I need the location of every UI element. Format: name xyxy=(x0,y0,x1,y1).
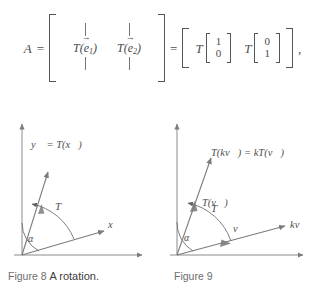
figure-9: T(kv⃗) = kT(v⃗) T(v⃗) v⃗ kv⃗ T α Figure … xyxy=(163,100,325,265)
left-bracket-icon xyxy=(182,28,189,68)
matrix-equation: A = T(e1) T(e2) = xyxy=(0,0,325,96)
figure-9-caption-name: Figure 9 xyxy=(174,270,213,282)
figure-8-diagram xyxy=(0,100,160,265)
matrix-entries-row: T(e1) T(e2) xyxy=(63,41,151,56)
figure-9-caption: Figure 9 xyxy=(174,270,213,282)
label-scaled-image-vector: T(kv⃗) = kT(v⃗) xyxy=(211,148,284,159)
bottom-bar-cell-2 xyxy=(107,57,151,74)
equation-row: A = T(e1) T(e2) = xyxy=(0,0,325,96)
matrix-bottom-bars-row xyxy=(63,57,151,74)
right-bracket-icon xyxy=(227,33,231,63)
label-source-vector-v: v⃗ xyxy=(233,224,246,235)
column-matrix-body: T(e1) T(e2) xyxy=(56,14,158,82)
label-transformation-T: T xyxy=(211,203,217,214)
trailing-comma: , xyxy=(298,42,301,55)
rhs-term-1-func: T xyxy=(195,42,202,55)
left-bracket-icon xyxy=(49,14,56,82)
label-source-vector-x: x⃗ xyxy=(108,220,121,231)
equals-sign-2: = xyxy=(170,42,177,55)
left-bracket-icon xyxy=(254,33,258,63)
left-bracket-icon xyxy=(206,33,210,63)
label-transformation-T: T xyxy=(55,201,61,212)
label-scaled-source-vector-kv: kv⃗ xyxy=(290,220,308,231)
vector-x-arrow xyxy=(22,231,104,255)
transformation-arc xyxy=(32,204,74,239)
rhs-matrix: T 1 0 T xyxy=(182,28,292,68)
figure-8-caption-text: A rotation. xyxy=(49,270,99,282)
figure-8: y⃗ = T(x⃗) x⃗ T α Figure 8 A rotation. xyxy=(0,100,160,265)
rhs-term-1-vector-body: 1 0 xyxy=(210,33,228,63)
entry-1-func: T xyxy=(73,41,80,55)
entry-2-close-paren: ) xyxy=(137,41,141,55)
right-bracket-icon xyxy=(158,14,165,82)
rhs-term-2-vector-body: 0 1 xyxy=(258,33,276,63)
entry-1-close-paren: ) xyxy=(93,41,97,55)
rhs-term-2-column-vector: 0 1 xyxy=(254,33,280,63)
rhs-terms: T 1 0 T xyxy=(195,33,279,63)
equals-sign-1: = xyxy=(37,42,44,55)
vector-T-v-arrowhead-icon xyxy=(190,201,198,212)
matrix-entry-2: T(e2) xyxy=(107,41,151,56)
rhs-term-1: T 1 0 xyxy=(195,33,231,63)
matrix-top-bars-row xyxy=(63,23,151,40)
entry-2-vector-e: e xyxy=(128,41,133,56)
bottom-bar-cell-1 xyxy=(63,57,107,74)
rhs-matrix-body: T 1 0 T xyxy=(189,28,285,68)
right-bracket-icon xyxy=(276,33,280,63)
figure-9-canvas: T(kv⃗) = kT(v⃗) T(v⃗) v⃗ kv⃗ T α xyxy=(163,100,325,265)
figure-8-caption-name: Figure 8 xyxy=(8,270,47,282)
rhs-term-1-column-vector: 1 0 xyxy=(206,33,232,63)
entry-2-func: T xyxy=(117,41,124,55)
matrix-A-symbol: A xyxy=(24,42,32,55)
vertical-bar-icon xyxy=(129,57,130,70)
figure-8-canvas: y⃗ = T(x⃗) x⃗ T α xyxy=(0,100,160,265)
right-bracket-icon xyxy=(286,28,293,68)
entry-1-vector-e: e xyxy=(84,41,89,56)
matrix-entry-1: T(e1) xyxy=(63,41,107,56)
figure-8-caption: Figure 8 A rotation. xyxy=(8,270,99,282)
rhs-term-2: T 0 1 xyxy=(244,33,280,63)
label-image-vector-y: y⃗ = T(x⃗) xyxy=(31,140,82,151)
rhs-term-2-func: T xyxy=(244,42,251,55)
label-angle-alpha: α xyxy=(28,234,33,244)
vertical-bar-icon xyxy=(85,57,86,70)
vector-component: 0 xyxy=(216,48,222,60)
column-matrix: T(e1) T(e2) xyxy=(49,14,165,82)
label-angle-alpha: α xyxy=(184,233,189,243)
vector-component: 1 xyxy=(264,48,270,60)
